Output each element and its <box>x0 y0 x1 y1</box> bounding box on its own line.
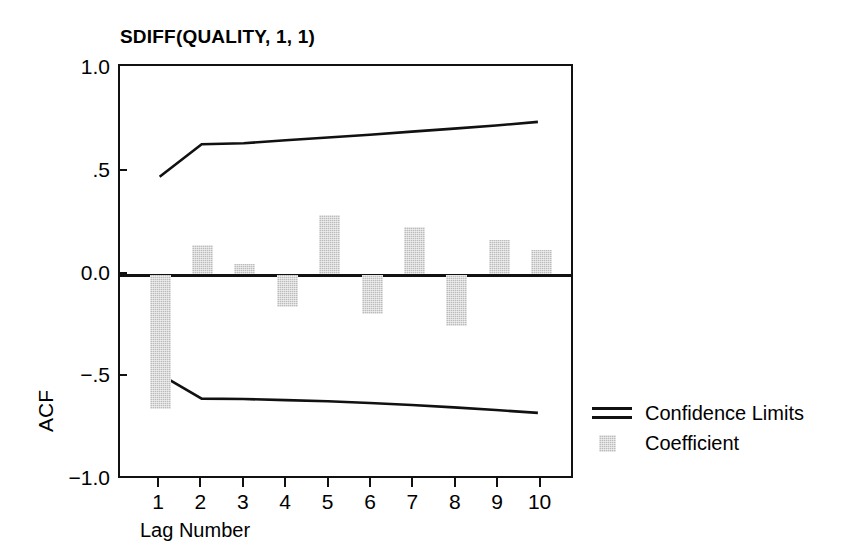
x-tick-mark-5 <box>327 478 329 487</box>
chart-title: SDIFF(QUALITY, 1, 1) <box>120 26 315 48</box>
bar-lag-2 <box>192 245 213 275</box>
y-tick-label-2: 0.0 <box>81 261 110 285</box>
plot-area <box>120 66 571 476</box>
upper-confidence-limit-line <box>160 122 538 177</box>
bar-lag-9 <box>489 240 510 275</box>
bar-lag-8 <box>446 275 467 326</box>
legend-item-coefficient: Coefficient <box>590 428 830 458</box>
chart-legend: Confidence Limits Coefficient <box>590 398 830 458</box>
lower-confidence-limit-line <box>160 374 538 413</box>
x-tick-label-2: 2 <box>180 490 220 514</box>
gray-swatch-icon <box>590 432 634 454</box>
bar-lag-7 <box>404 227 425 274</box>
bar-lag-3 <box>234 264 255 275</box>
bar-lag-5 <box>319 215 340 275</box>
x-tick-mark-1 <box>157 478 159 487</box>
x-tick-label-6: 6 <box>350 490 390 514</box>
acf-chart: SDIFF(QUALITY, 1, 1) 1.0.50.0−.5−1.0 ACF… <box>0 0 842 559</box>
x-tick-label-7: 7 <box>392 490 432 514</box>
legend-label-confidence-limits: Confidence Limits <box>645 402 804 425</box>
y-tick-label-4: −1.0 <box>69 466 110 490</box>
bar-lag-6 <box>362 275 383 314</box>
x-tick-label-9: 9 <box>477 490 517 514</box>
x-tick-mark-6 <box>369 478 371 487</box>
bar-lag-4 <box>277 275 298 308</box>
y-tick-label-1: .5 <box>92 158 110 182</box>
x-tick-mark-8 <box>454 478 456 487</box>
y-tick-label-0: 1.0 <box>81 55 110 79</box>
x-axis-title: Lag Number <box>140 519 250 542</box>
x-tick-mark-7 <box>411 478 413 487</box>
y-axis-title: ACF <box>34 390 58 432</box>
x-tick-label-5: 5 <box>308 490 348 514</box>
y-tick-label-3: −.5 <box>80 363 110 387</box>
double-line-icon <box>590 402 634 424</box>
legend-item-confidence-limits: Confidence Limits <box>590 398 830 428</box>
y-tick-mark-1 <box>118 169 127 171</box>
y-axis-tick-labels: 1.0.50.0−.5−1.0 <box>18 0 110 559</box>
bar-lag-1 <box>150 275 171 410</box>
x-tick-label-8: 8 <box>435 490 475 514</box>
y-tick-mark-2 <box>118 272 127 274</box>
x-tick-label-3: 3 <box>223 490 263 514</box>
x-tick-mark-4 <box>284 478 286 487</box>
x-tick-mark-9 <box>496 478 498 487</box>
plot-frame <box>118 64 573 478</box>
x-tick-mark-10 <box>539 478 541 487</box>
y-tick-mark-3 <box>118 374 127 376</box>
x-tick-label-4: 4 <box>265 490 305 514</box>
legend-label-coefficient: Coefficient <box>645 432 739 455</box>
x-tick-label-1: 1 <box>138 490 178 514</box>
bar-lag-10 <box>531 250 552 275</box>
x-tick-label-10: 10 <box>520 490 560 514</box>
x-tick-mark-3 <box>242 478 244 487</box>
x-tick-mark-2 <box>199 478 201 487</box>
